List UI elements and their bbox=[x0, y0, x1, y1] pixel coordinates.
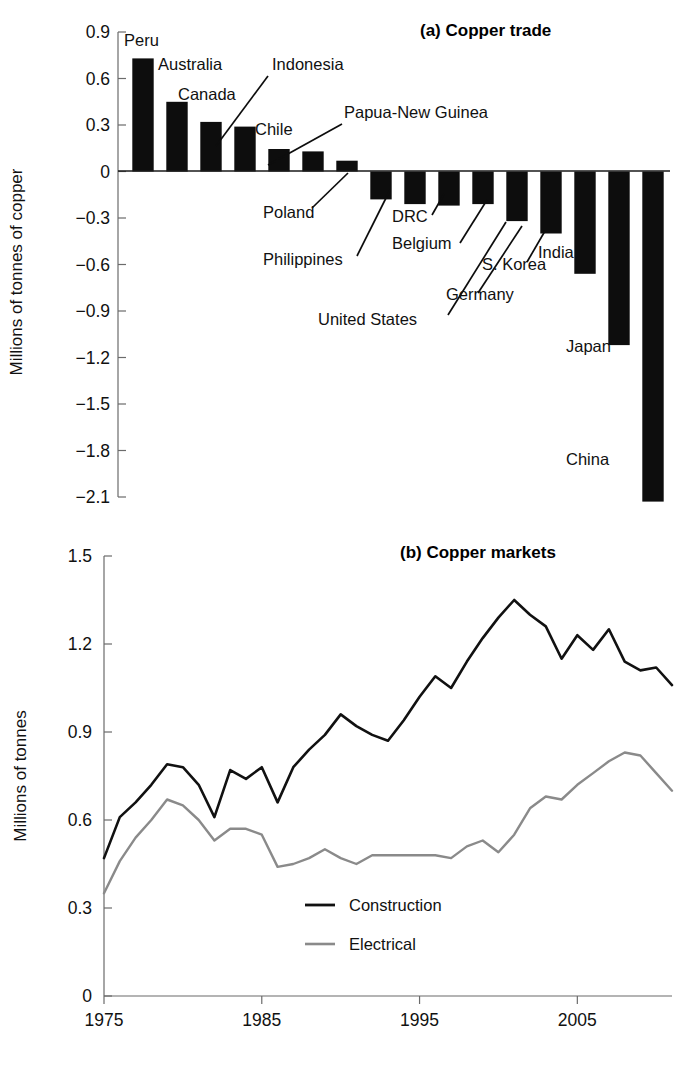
bar-label-belgium: Belgium bbox=[392, 234, 452, 252]
bar-japan bbox=[608, 172, 629, 346]
y-tick-label-a: −0.9 bbox=[75, 301, 110, 321]
x-axis-tick-marks-b bbox=[104, 996, 577, 1004]
y-tick-label-a: −1.8 bbox=[75, 441, 110, 461]
y-axis-tick-marks-b bbox=[104, 556, 112, 996]
y-tick-label-b: 0.9 bbox=[68, 722, 92, 742]
bar-label-drc: DRC bbox=[392, 207, 428, 225]
y-tick-label-b: 0 bbox=[82, 986, 92, 1006]
x-tick-label-b: 2005 bbox=[558, 1010, 597, 1030]
bar-chile bbox=[268, 149, 289, 172]
bar-belgium bbox=[438, 172, 459, 206]
y-tick-label-b: 0.3 bbox=[68, 898, 92, 918]
y-tick-label-a: 0.6 bbox=[86, 69, 110, 89]
bar-category-labels-a: PeruAustraliaCanadaIndonesiaChilePapua-N… bbox=[124, 31, 611, 468]
y-axis-tick-labels-b: 1.51.20.90.60.30 bbox=[68, 546, 93, 1006]
bar-label-chile: Chile bbox=[255, 120, 293, 138]
panel-b-title: (b) Copper markets bbox=[400, 543, 556, 562]
panel-b-copper-markets: 1.51.20.90.60.30 1975198519952005 Constr… bbox=[0, 520, 682, 1083]
bar-papua-new-guinea bbox=[302, 151, 323, 171]
bar-label-china: China bbox=[566, 450, 610, 468]
y-tick-label-a: −0.3 bbox=[75, 208, 110, 228]
y-tick-label-a: −0.6 bbox=[75, 255, 110, 275]
x-tick-label-b: 1975 bbox=[85, 1010, 124, 1030]
x-axis-tick-labels-b: 1975198519952005 bbox=[85, 1010, 597, 1030]
y-tick-label-a: −1.2 bbox=[75, 348, 110, 368]
x-tick-label-b: 1995 bbox=[400, 1010, 439, 1030]
y-axis-title-b: Millions of tonnes bbox=[11, 710, 30, 841]
bar-label-peru: Peru bbox=[124, 31, 159, 49]
y-tick-label-a: 0.3 bbox=[86, 115, 110, 135]
y-axis-tick-marks-a bbox=[118, 32, 126, 497]
y-tick-label-a: 0.9 bbox=[86, 22, 110, 42]
y-tick-label-b: 0.6 bbox=[68, 810, 92, 830]
bar-s-korea bbox=[540, 172, 561, 234]
bar-peru bbox=[132, 58, 153, 171]
leader-line-poland bbox=[312, 173, 348, 208]
y-tick-label-a: −2.1 bbox=[75, 487, 110, 507]
bar-philippines bbox=[370, 172, 391, 200]
line-chart-svg: 1.51.20.90.60.30 1975198519952005 Constr… bbox=[0, 520, 682, 1083]
bar-indonesia bbox=[234, 127, 255, 172]
x-tick-label-b: 1985 bbox=[242, 1010, 281, 1030]
panel-a-title: (a) Copper trade bbox=[420, 21, 551, 40]
bar-series-a bbox=[132, 58, 663, 501]
bar-chart-svg: 0.90.60.30−0.3−0.6−0.9−1.2−1.5−1.8−2.1 P… bbox=[0, 0, 682, 520]
bar-poland bbox=[336, 161, 357, 172]
y-tick-label-b: 1.2 bbox=[68, 634, 92, 654]
bar-label-india: India bbox=[538, 243, 575, 261]
bar-label-poland: Poland bbox=[263, 203, 314, 221]
bar-germany bbox=[506, 172, 527, 222]
bar-united-states bbox=[472, 172, 493, 205]
y-tick-label-a: 0 bbox=[100, 162, 110, 182]
bar-label-indonesia: Indonesia bbox=[272, 55, 344, 73]
y-tick-label-a: −1.5 bbox=[75, 394, 110, 414]
legend-label-electrical: Electrical bbox=[349, 935, 416, 953]
bar-label-philippines: Philippines bbox=[263, 250, 343, 268]
bar-drc bbox=[404, 172, 425, 205]
bar-label-japan: Japan bbox=[566, 337, 611, 355]
panel-a-copper-trade: 0.90.60.30−0.3−0.6−0.9−1.2−1.5−1.8−2.1 P… bbox=[0, 0, 682, 520]
bar-label-australia: Australia bbox=[158, 55, 223, 73]
bar-australia bbox=[166, 102, 187, 172]
y-tick-label-b: 1.5 bbox=[68, 546, 92, 566]
legend-label-construction: Construction bbox=[349, 896, 442, 914]
bar-label-united-states: United States bbox=[318, 310, 417, 328]
bar-label-canada: Canada bbox=[178, 85, 237, 103]
bar-label-papua-new-guinea: Papua-New Guinea bbox=[344, 103, 489, 121]
leader-line-belgium bbox=[460, 200, 487, 243]
bar-india bbox=[574, 172, 595, 274]
bar-china bbox=[642, 172, 663, 502]
series-line-construction bbox=[104, 600, 672, 858]
figure-copper-trade-and-markets: 0.90.60.30−0.3−0.6−0.9−1.2−1.5−1.8−2.1 P… bbox=[0, 0, 682, 1083]
legend-b: ConstructionElectrical bbox=[305, 896, 442, 953]
y-axis-title-a: Millions of tonnes of copper bbox=[7, 168, 26, 375]
bar-label-germany: Germany bbox=[446, 285, 515, 303]
y-axis-tick-labels-a: 0.90.60.30−0.3−0.6−0.9−1.2−1.5−1.8−2.1 bbox=[75, 22, 110, 507]
bar-canada bbox=[200, 122, 221, 172]
leader-line-philippines bbox=[357, 190, 390, 256]
